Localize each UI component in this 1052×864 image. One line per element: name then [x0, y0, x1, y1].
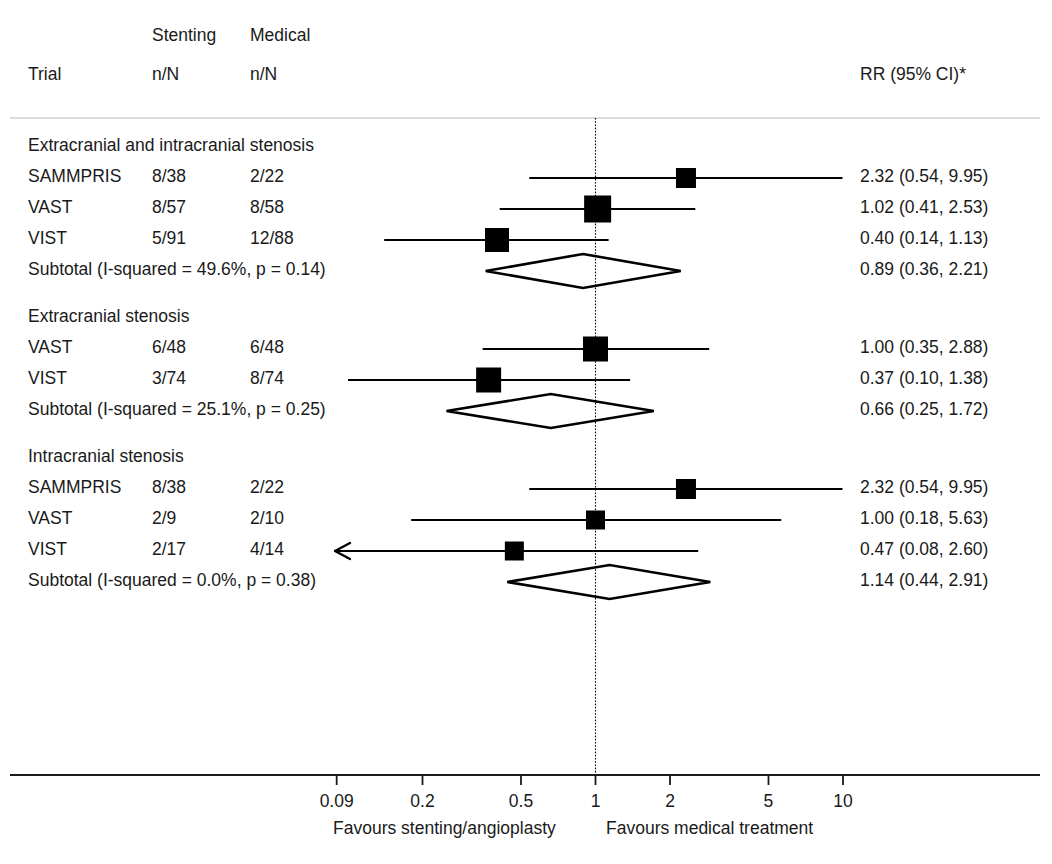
effect-marker-2-2	[505, 542, 524, 561]
effect-marker-1-1	[476, 368, 501, 393]
effect-marker-0-0	[676, 168, 696, 188]
subtotal-diamond-1	[446, 394, 653, 428]
effect-marker-0-1	[584, 196, 611, 223]
effect-marker-0-2	[485, 228, 509, 252]
effect-marker-2-0	[676, 479, 696, 499]
effect-marker-2-1	[586, 511, 605, 530]
forest-plot-graphic	[0, 0, 1052, 864]
subtotal-diamond-2	[507, 565, 710, 599]
subtotal-diamond-0	[486, 254, 681, 288]
